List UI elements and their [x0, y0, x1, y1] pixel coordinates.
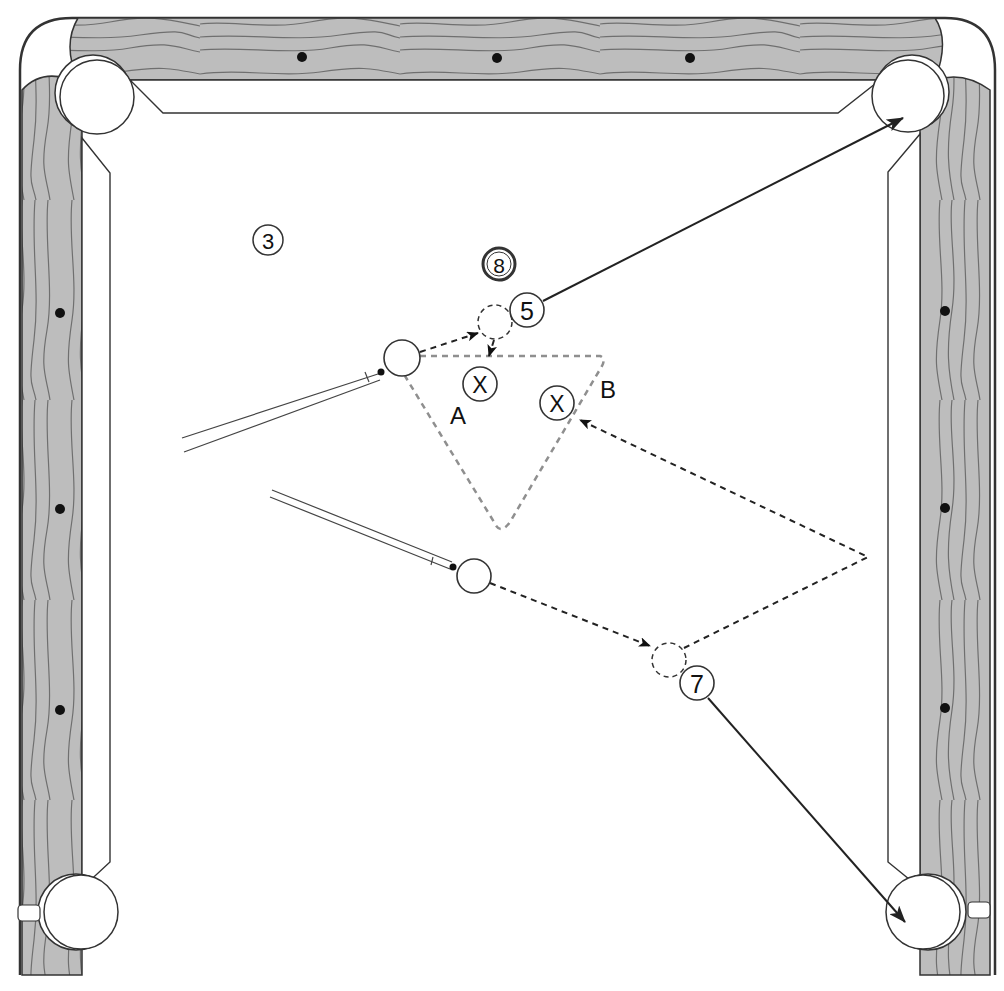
diamond-marker [297, 52, 307, 62]
right-rail [920, 77, 990, 975]
svg-text:X: X [549, 391, 564, 417]
svg-text:8: 8 [493, 254, 505, 277]
ball-7: 7 [680, 666, 714, 700]
region-label-b: B [600, 376, 616, 403]
target-marker-b: X [540, 386, 574, 420]
pool-table-diagram: 3 8 5 7 X X A B [0, 0, 1004, 991]
diamond-marker [940, 306, 950, 316]
target-marker-a: X [463, 367, 497, 401]
diamond-marker [940, 703, 950, 713]
left-rail [22, 76, 82, 975]
top-rail [70, 18, 943, 80]
diamond-marker [55, 504, 65, 514]
svg-text:X: X [472, 372, 487, 398]
diamond-marker [55, 308, 65, 318]
cue-ball-b [457, 559, 491, 593]
diamond-marker [492, 53, 502, 63]
ball-5: 5 [510, 293, 544, 327]
region-label-a: A [450, 402, 466, 429]
diamond-marker [685, 53, 695, 63]
pocket-bottom-right [886, 874, 966, 950]
svg-text:5: 5 [520, 297, 534, 325]
ball-3: 3 [253, 225, 283, 255]
svg-text:7: 7 [690, 670, 704, 698]
diamond-marker [55, 705, 65, 715]
cue-ball-a [384, 340, 420, 376]
diamond-marker [940, 503, 950, 513]
table-frame [20, 18, 995, 975]
ball-8: 8 [483, 248, 515, 280]
pocket-bottom-left [38, 874, 118, 950]
svg-text:3: 3 [262, 229, 274, 254]
